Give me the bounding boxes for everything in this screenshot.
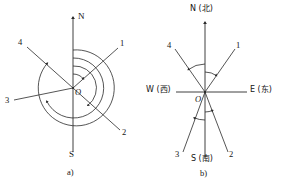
panel-b-ray-3 [183,92,205,152]
panel-a-origin-dot [72,87,74,89]
panel-b-caption: b) [200,169,207,178]
panel-a-north-label: N [78,12,85,21]
panel-b-east-label: E (东) [250,86,272,94]
panel-a-ray-label-1: 1 [120,39,124,48]
panel-a-arc-bearing-2 [73,66,96,106]
panel-b-ray-4 [175,49,205,92]
panel-b-ray-1 [205,49,235,92]
panel-a-south-label: S [69,150,74,159]
panel-b-north-label: N (北) [190,5,213,13]
panel-b-origin-label: O [195,95,201,104]
panel-b-ray-label-1: 1 [236,41,240,50]
panel-b-west-label: W (西) [146,86,171,94]
panel-b-ray-label-3: 3 [175,150,179,159]
panel-a-caption: a) [67,168,74,177]
panel-a-ray-label-4: 4 [18,38,22,47]
panel-b-arc-bearing-4 [188,64,205,70]
panel-a-ray-3 [14,88,73,100]
panel-b-south-label: S (南) [191,155,213,163]
figure-root: N S O 1 2 3 4 a) N (北) S (南) W (西) E (东)… [0,0,287,189]
panel-a-ray-label-3: 3 [5,96,9,105]
panel-a-origin-label: O [75,88,81,97]
panel-a-graphics [14,17,120,152]
panel-a-arc-bearing-1 [73,74,84,79]
panel-b-origin-dot [204,91,206,93]
panel-a-ray-label-2: 2 [122,128,126,137]
panel-b-arc-bearing-2 [205,110,213,112]
panel-b-ray-label-4: 4 [167,41,171,50]
panel-b-ray-label-2: 2 [229,150,233,159]
panel-b-ray-2 [205,92,228,152]
panel-a-ray-4 [27,47,73,88]
panel-b-arc-bearing-1 [205,72,217,76]
figure-vector-layer [0,0,287,189]
